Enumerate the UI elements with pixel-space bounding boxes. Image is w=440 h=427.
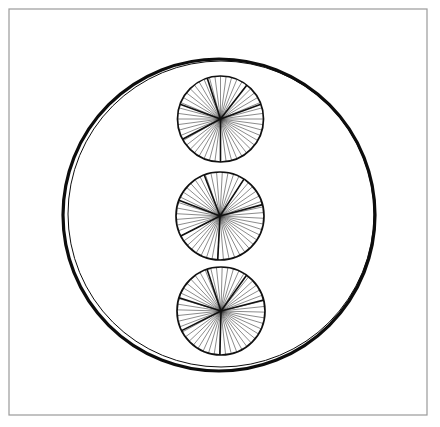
wheel-top [178,76,264,162]
figure-drawing [0,0,440,427]
figure-canvas [0,0,440,427]
